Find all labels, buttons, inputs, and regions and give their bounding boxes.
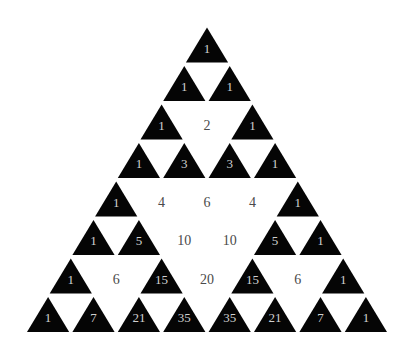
- even-cell-value: 20: [200, 272, 214, 287]
- odd-cell-value: 1: [340, 272, 347, 287]
- odd-cell-value: 1: [204, 41, 211, 56]
- even-cell-value: 6: [113, 272, 120, 287]
- triangle-cells: 1111211331146411510105116152015611721353…: [27, 28, 387, 332]
- odd-cell-value: 5: [136, 233, 143, 248]
- odd-cell-value: 35: [178, 310, 191, 325]
- pascal-sierpinski-diagram: 1111211331146411510105116152015611721353…: [0, 0, 408, 357]
- odd-cell-value: 1: [249, 118, 256, 133]
- odd-cell-value: 1: [317, 233, 324, 248]
- odd-cell-value: 1: [363, 310, 370, 325]
- odd-cell-value: 1: [295, 195, 302, 210]
- odd-cell-value: 7: [90, 310, 97, 325]
- odd-cell-value: 21: [269, 310, 282, 325]
- odd-cell-value: 15: [155, 272, 168, 287]
- odd-cell-value: 5: [272, 233, 279, 248]
- even-cell-value: 10: [177, 233, 191, 248]
- odd-cell-value: 1: [226, 79, 233, 94]
- odd-cell-value: 7: [317, 310, 324, 325]
- odd-cell-value: 1: [158, 118, 165, 133]
- odd-cell-value: 3: [181, 156, 188, 171]
- odd-cell-value: 1: [136, 156, 143, 171]
- odd-cell-value: 1: [90, 233, 97, 248]
- odd-cell-value: 1: [272, 156, 279, 171]
- even-cell-value: 4: [158, 195, 165, 210]
- odd-cell-value: 1: [181, 79, 188, 94]
- odd-cell-value: 15: [246, 272, 259, 287]
- even-cell-value: 6: [294, 272, 301, 287]
- odd-cell-value: 1: [45, 310, 52, 325]
- odd-cell-value: 1: [113, 195, 120, 210]
- even-cell-value: 10: [223, 233, 237, 248]
- even-cell-value: 6: [204, 195, 211, 210]
- even-cell-value: 4: [249, 195, 256, 210]
- odd-cell-value: 1: [68, 272, 75, 287]
- odd-cell-value: 3: [226, 156, 233, 171]
- odd-cell-value: 21: [132, 310, 145, 325]
- odd-cell-value: 35: [223, 310, 236, 325]
- even-cell-value: 2: [204, 118, 211, 133]
